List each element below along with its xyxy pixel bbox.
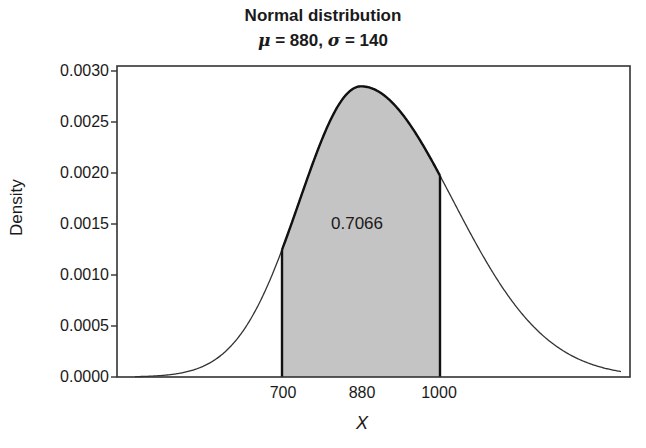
x-tick-label: 1000 — [409, 384, 469, 402]
y-tick-marks — [111, 71, 117, 377]
x-axis-label: X — [356, 413, 368, 434]
y-tick-label: 0.0015 — [9, 215, 109, 233]
y-tick-label: 0.0025 — [9, 113, 109, 131]
probability-annotation: 0.7066 — [331, 214, 383, 234]
x-tick-label: 700 — [253, 384, 313, 402]
y-tick-label: 0.0005 — [9, 317, 109, 335]
x-tick-label: 880 — [332, 384, 392, 402]
y-tick-label: 0.0020 — [9, 164, 109, 182]
y-tick-label: 0.0010 — [9, 266, 109, 284]
y-tick-label: 0.0030 — [9, 62, 109, 80]
y-tick-label: 0.0000 — [9, 368, 109, 386]
